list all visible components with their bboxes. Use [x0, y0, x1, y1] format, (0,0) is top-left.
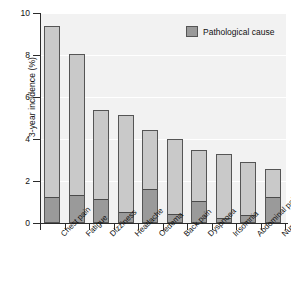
y-axis-tick-label: 10 [0, 9, 30, 18]
chart-figure: 3-year incidence (%) 0246810 Chest painF… [0, 0, 291, 291]
y-axis-tick-label: 2 [0, 177, 30, 186]
x-axis-tick [163, 224, 164, 230]
x-axis-label: Insomnia [231, 232, 237, 238]
y-axis-tick-label: 8 [0, 51, 30, 60]
legend-label-pathological-cause: Pathological cause [203, 27, 274, 37]
y-axis-tick [33, 55, 40, 56]
chart-legend: Pathological cause [186, 26, 274, 37]
bar-fatigue[interactable] [69, 54, 85, 223]
x-axis-tick [40, 224, 41, 230]
legend-swatch-pathological-cause [186, 26, 198, 37]
y-axis-tick-label: 4 [0, 135, 30, 144]
y-axis-tick [33, 13, 40, 14]
x-axis-label: Back pain [182, 232, 188, 238]
bar-back-pain[interactable] [167, 139, 183, 223]
x-axis-label: Oedema [157, 232, 163, 238]
y-axis-tick [33, 181, 40, 182]
x-axis-label: Chest pain [59, 232, 65, 238]
x-axis-tick [212, 224, 213, 230]
x-axis-tick [89, 224, 90, 230]
x-axis-tick [114, 224, 115, 230]
bar-chest-pain[interactable] [44, 26, 60, 223]
x-axis-label: Dizziness [108, 232, 114, 238]
x-axis-label: Fatigue [84, 232, 90, 238]
y-axis-tick [33, 223, 40, 224]
gridline [41, 13, 286, 14]
x-axis-label: Headache [133, 232, 139, 238]
x-axis-tick [187, 224, 188, 230]
y-axis-tick [33, 97, 40, 98]
bar-dizziness[interactable] [93, 110, 109, 223]
x-axis-tick [261, 224, 262, 230]
y-axis-tick-label: 6 [0, 93, 30, 102]
x-axis-tick [285, 224, 286, 230]
x-axis-label: Abdominal pain [255, 232, 261, 238]
y-axis-tick [33, 139, 40, 140]
x-axis-tick [236, 224, 237, 230]
x-axis-label: Dyspnoea [206, 232, 212, 238]
bar-segment-pathological-cause [45, 197, 59, 222]
y-axis-tick-label: 0 [0, 219, 30, 228]
x-axis-tick [65, 224, 66, 230]
x-axis-tick [138, 224, 139, 230]
x-axis-label: Numbness [280, 232, 286, 238]
